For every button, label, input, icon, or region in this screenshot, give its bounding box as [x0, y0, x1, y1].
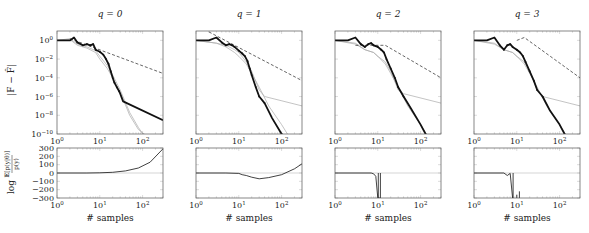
top-y-tick-label: 10−8 [35, 110, 54, 120]
top-y-tick-label: 10−4 [35, 73, 54, 83]
series-marker [397, 86, 399, 88]
series-line-slope-reference [70, 39, 163, 74]
top-x-tick-label: 102 [275, 136, 289, 146]
series-marker [380, 49, 382, 51]
series-marker [116, 86, 118, 88]
series-line-reference-a [474, 40, 580, 106]
series-marker [364, 46, 366, 48]
bottom-x-tick-label: 100 [189, 200, 203, 210]
series-marker [394, 77, 396, 79]
series-marker [86, 43, 88, 45]
top-panel-frame [474, 31, 580, 134]
series-marker [533, 80, 535, 82]
top-series-group [335, 38, 441, 139]
bottom-x-tick-label: 101 [232, 200, 246, 210]
series-line-estimate-bold- [335, 38, 428, 139]
series-marker [377, 46, 379, 48]
series-marker [231, 44, 233, 46]
panel-title: q = 0 [98, 9, 123, 19]
top-panel-frame [335, 31, 441, 134]
top-panel-frame [57, 31, 163, 134]
series-marker [89, 44, 91, 46]
top-x-tick-label: 100 [467, 136, 481, 146]
top-series-group [196, 32, 302, 139]
series-marker [114, 82, 116, 84]
series-marker [95, 49, 97, 51]
bottom-x-tick-label: 101 [371, 200, 385, 210]
series-marker [99, 51, 101, 53]
series-marker [82, 44, 84, 46]
bottom-y-axis-label-numerator: 𝔼[p(y|θ)] [3, 151, 11, 178]
series-marker [234, 46, 236, 48]
series-marker [118, 90, 120, 92]
bottom-x-tick-label: 102 [136, 200, 150, 210]
series-marker [221, 42, 223, 44]
series-marker [373, 44, 375, 46]
series-marker [509, 43, 511, 45]
bottom-series-group [335, 173, 380, 198]
top-x-tick-label: 102 [414, 136, 428, 146]
series-marker [403, 96, 405, 98]
series-marker [77, 42, 79, 44]
top-y-tick-label: 10−2 [35, 54, 53, 64]
bottom-x-tick-label: 102 [553, 200, 567, 210]
series-marker [249, 68, 251, 70]
series-marker [519, 52, 521, 54]
bottom-x-tick-label: 102 [275, 200, 289, 210]
series-marker [522, 55, 524, 57]
bottom-series-group [196, 164, 302, 179]
series-line-reference-a [335, 40, 441, 103]
series-marker [499, 44, 501, 46]
series-marker [367, 43, 369, 45]
series-marker [241, 53, 243, 55]
top-x-tick-label: 100 [328, 136, 342, 146]
series-marker [390, 68, 392, 70]
top-y-axis-label: |F − F̂| [5, 64, 17, 96]
bottom-y-axis-label-denominator: p(y) [12, 158, 20, 170]
bottom-series-group [474, 173, 519, 198]
series-marker [105, 58, 107, 60]
series-marker [542, 96, 544, 98]
bottom-x-tick-label: 100 [50, 200, 64, 210]
panel-column-0: q = 010010−210−410−610−810−1010010110230… [31, 9, 163, 223]
series-marker [360, 43, 362, 45]
series-line-slope-reference [209, 32, 302, 81]
panel-title: q = 1 [237, 9, 262, 19]
panel-column-3: q = 3100101102100101102# samples [467, 9, 580, 223]
top-x-tick-label: 102 [553, 136, 567, 146]
series-marker [516, 49, 518, 51]
series-marker [264, 102, 266, 104]
top-panel-frame [196, 31, 302, 134]
series-line-estimate-bold- [57, 38, 163, 121]
series-line-slope-reference [355, 45, 441, 78]
top-x-tick-label: 102 [136, 136, 150, 146]
log-ratio-line [57, 149, 163, 173]
series-marker [102, 54, 104, 56]
series-line-reference-a [196, 40, 302, 106]
series-marker [238, 50, 240, 52]
series-marker [503, 49, 505, 51]
x-axis-label: # samples [364, 213, 412, 223]
series-marker [370, 42, 372, 44]
top-x-tick-label: 101 [510, 136, 524, 146]
bottom-y-axis-label: log 𝔼[p(y|θ)] p(y) [3, 151, 20, 194]
panels-group: q = 010010−210−410−610−810−1010010110230… [31, 9, 580, 223]
top-x-tick-label: 101 [232, 136, 246, 146]
series-marker [255, 86, 257, 88]
series-marker [536, 89, 538, 91]
top-x-tick-label: 100 [189, 136, 203, 146]
series-marker [258, 96, 260, 98]
top-x-tick-label: 101 [371, 136, 385, 146]
series-marker [386, 58, 388, 60]
series-marker [525, 61, 527, 63]
bottom-series-group [57, 149, 163, 173]
series-marker [247, 60, 249, 62]
series-line-reference-b [335, 40, 429, 138]
panel-title: q = 3 [515, 9, 540, 19]
series-marker [529, 70, 531, 72]
x-axis-label: # samples [86, 213, 134, 223]
series-marker [383, 52, 385, 54]
figure: q = 010010−210−410−610−810−1010010110230… [0, 0, 589, 233]
bottom-x-tick-label: 101 [93, 200, 107, 210]
series-marker [225, 44, 227, 46]
